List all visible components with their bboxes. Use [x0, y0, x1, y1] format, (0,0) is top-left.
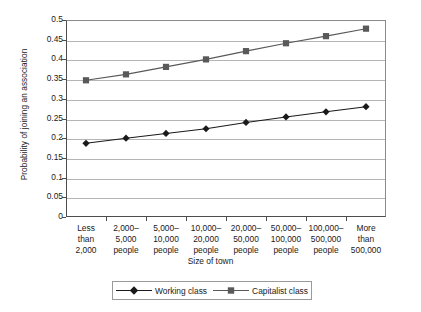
- data-point-square: [323, 33, 329, 39]
- x-axis-category-line: More: [342, 223, 390, 234]
- x-axis-title: Size of town: [0, 256, 421, 266]
- y-axis-tick-mark: [62, 217, 66, 218]
- data-point-square: [203, 56, 209, 62]
- data-point-square: [83, 77, 89, 83]
- diamond-marker-icon: [116, 285, 152, 296]
- data-series-layer: [66, 20, 386, 217]
- x-axis-tick-mark: [186, 217, 187, 221]
- x-axis-tick-mark: [306, 217, 307, 221]
- chart-figure: Probability of joining an association 0.…: [0, 0, 421, 312]
- data-point-diamond: [322, 108, 329, 115]
- square-marker-icon: [213, 285, 249, 296]
- series-capitalist-class: [83, 26, 369, 84]
- y-axis-tick-label: 0: [13, 212, 63, 220]
- data-point-diamond: [122, 135, 129, 142]
- data-point-diamond: [162, 130, 169, 137]
- data-point-square: [363, 26, 369, 32]
- x-axis-category-label: Morethan500,000: [342, 223, 390, 255]
- data-point-square: [283, 40, 289, 46]
- y-axis-tick-label: 0.2: [13, 133, 63, 141]
- x-axis-tick-mark: [346, 217, 347, 221]
- x-axis-tick-mark: [226, 217, 227, 221]
- y-axis-tick-label: 0.15: [13, 153, 63, 161]
- y-axis-tick-label: 0.5: [13, 15, 63, 23]
- y-axis-tick-label: 0.4: [13, 54, 63, 62]
- legend-entry-capitalist-class[interactable]: Capitalist class: [213, 285, 308, 296]
- data-point-diamond: [242, 119, 249, 126]
- legend-entry-working-class[interactable]: Working class: [116, 285, 207, 296]
- x-axis-category-line: 500,000: [342, 245, 390, 256]
- data-point-diamond: [282, 113, 289, 120]
- data-point-square: [123, 71, 129, 77]
- chart-legend: Working class Capitalist class: [112, 281, 312, 300]
- x-axis-tick-mark: [266, 217, 267, 221]
- y-axis-tick-label: 0.1: [13, 173, 63, 181]
- y-axis-tick-label: 0.3: [13, 94, 63, 102]
- legend-label-working-class: Working class: [155, 286, 207, 296]
- x-axis-tick-mark: [106, 217, 107, 221]
- data-point-square: [163, 64, 169, 70]
- x-axis-tick-mark: [146, 217, 147, 221]
- legend-label-capitalist-class: Capitalist class: [252, 286, 308, 296]
- data-point-diamond: [362, 103, 369, 110]
- y-axis-tick-label: 0.35: [13, 74, 63, 82]
- y-axis-tick-label: 0.45: [13, 35, 63, 43]
- series-working-class: [82, 103, 369, 147]
- data-point-square: [243, 48, 249, 54]
- x-axis-category-line: than: [342, 234, 390, 245]
- y-axis-tick-label: 0.05: [13, 192, 63, 200]
- y-axis-tick-label: 0.25: [13, 114, 63, 122]
- data-point-diamond: [82, 140, 89, 147]
- data-point-diamond: [202, 125, 209, 132]
